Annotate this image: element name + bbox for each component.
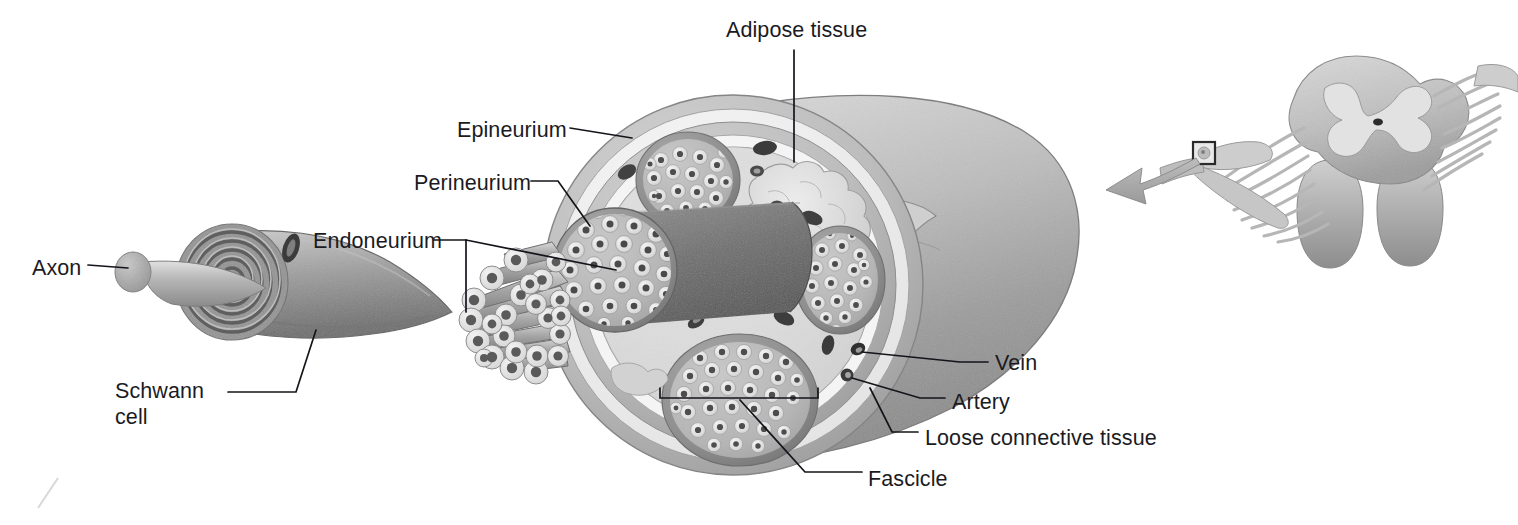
splayed-nerve-fiber-bundle (459, 242, 571, 384)
label-fascicle: Fascicle (868, 466, 948, 492)
label-endoneurium: Endoneurium (313, 228, 442, 254)
label-vein: Vein (995, 350, 1037, 376)
label-adipose-tissue: Adipose tissue (726, 17, 867, 43)
label-schwann-cell: Schwanncell (115, 378, 235, 430)
label-perineurium: Perineurium (414, 170, 531, 196)
cut-fascicle-cylinder (553, 202, 812, 332)
axon-cut-end (115, 252, 151, 292)
figure-canvas: Axon Schwanncell Endoneurium Perineurium… (0, 0, 1518, 525)
label-loose-connective-tissue: Loose connective tissue (925, 425, 1157, 451)
spinal-cord-segment (1160, 56, 1518, 268)
label-axon: Axon (32, 255, 81, 281)
artery-vessel (841, 369, 854, 382)
peripheral-nerve-illustration (0, 0, 1518, 525)
scan-artifact-mark (38, 478, 58, 508)
label-epineurium: Epineurium (457, 117, 567, 143)
magnify-arrow (1106, 158, 1200, 204)
label-schwann-cell-line2: cell (115, 405, 148, 429)
label-artery: Artery (952, 389, 1010, 415)
label-schwann-cell-line1: Schwann (115, 379, 204, 403)
